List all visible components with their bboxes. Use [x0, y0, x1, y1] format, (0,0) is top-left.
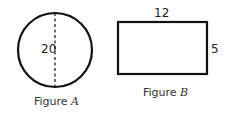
figure-b-caption: Figure B: [143, 86, 188, 99]
rectangle-shape: [118, 22, 207, 74]
figure-b: 12 5 Figure B: [118, 6, 219, 99]
figure-a-caption: Figure A: [34, 95, 79, 108]
diameter-label: 20: [41, 42, 56, 56]
width-label: 12: [154, 6, 169, 20]
figure-a: 20 Figure A: [18, 13, 92, 108]
figures-diagram: 20 Figure A 12 5 Figure B: [0, 0, 230, 113]
height-label: 5: [211, 42, 219, 56]
